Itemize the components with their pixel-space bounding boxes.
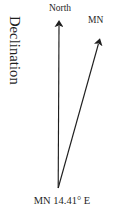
declination-axis-label: Declination bbox=[8, 16, 23, 85]
magnetic-north-arrow bbox=[58, 44, 98, 188]
true-north-arrow bbox=[58, 26, 59, 188]
true-north-label: North bbox=[0, 4, 121, 14]
magnetic-north-label: MN bbox=[88, 16, 103, 26]
declination-diagram: North MN Declination MN 14.41° E bbox=[0, 0, 122, 212]
declination-value-caption: MN 14.41° E bbox=[1, 196, 122, 207]
